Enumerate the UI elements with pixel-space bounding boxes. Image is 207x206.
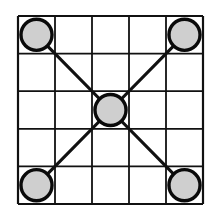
piece-center [95,94,126,125]
piece-bottom-left [21,170,52,201]
board-diagram [0,0,207,206]
piece-top-right [169,19,200,50]
pieces [21,19,200,200]
piece-bottom-right [169,170,200,201]
piece-top-left [21,19,52,50]
